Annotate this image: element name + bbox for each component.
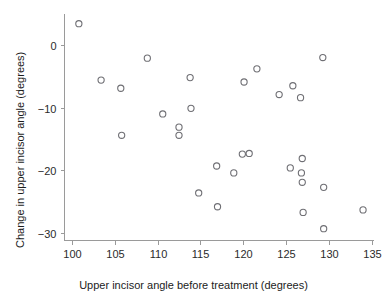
data-point [321,226,327,232]
data-point [176,132,182,138]
data-point [299,179,305,185]
data-point [360,207,366,213]
data-point [321,184,327,190]
data-point [287,165,293,171]
data-point [119,132,125,138]
data-point [300,209,306,215]
data-point [76,21,82,27]
data-point [214,163,220,169]
y-tick-label: −20 [27,165,57,177]
data-point [144,55,150,61]
y-tick-label: −10 [27,103,57,115]
data-point [298,170,304,176]
data-point [160,111,166,117]
x-tick-label: 110 [150,248,168,260]
axes-group [65,14,375,241]
y-tick-label: 0 [27,40,57,52]
x-tick-label: 100 [63,248,81,260]
x-tick-label: 120 [234,248,252,260]
data-points-group [76,21,366,232]
y-axis-title: Change in upper incisor angle (degrees) [14,52,26,248]
x-tick-label: 135 [363,248,381,260]
scatter-plot-figure: 1001051101151201251301350−10−20−30 Upper… [0,0,387,296]
y-tick-label: −30 [27,228,57,240]
data-point [196,190,202,196]
data-point [299,155,305,161]
data-point [241,79,247,85]
data-point [98,77,104,83]
data-point [276,91,282,97]
x-tick-label: 105 [106,248,124,260]
data-point [231,170,237,176]
data-point [176,124,182,130]
data-point [187,75,193,81]
data-point [290,83,296,89]
tick-marks-group [61,46,373,245]
x-tick-label: 125 [277,248,295,260]
data-point [239,151,245,157]
x-tick-label: 130 [320,248,338,260]
data-point [118,85,124,91]
data-point [188,105,194,111]
data-point [246,150,252,156]
data-point [254,66,260,72]
x-tick-label: 115 [192,248,210,260]
data-point [214,204,220,210]
x-axis-title: Upper incisor angle before treatment (de… [0,279,387,291]
data-point [297,95,303,101]
data-point [320,54,326,60]
